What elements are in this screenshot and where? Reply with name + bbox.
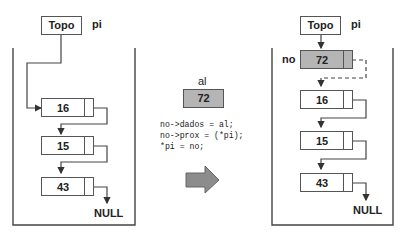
list-node-after: 15 bbox=[300, 131, 353, 150]
topo-box-before: Topo bbox=[41, 16, 82, 35]
null-label-before: NULL bbox=[94, 207, 123, 219]
topo-box-after: Topo bbox=[300, 16, 341, 35]
list-node-after: 43 bbox=[300, 173, 353, 192]
new-list-node: 72 bbox=[300, 50, 353, 69]
no-label: no bbox=[282, 53, 295, 65]
list-node-before: 15 bbox=[41, 136, 94, 155]
pi-label-after: pi bbox=[351, 18, 361, 30]
pi-label-before: pi bbox=[92, 18, 102, 30]
list-node-after: 16 bbox=[300, 90, 353, 109]
list-node-before: 43 bbox=[41, 177, 94, 196]
code-line: no->dados = al; bbox=[160, 119, 234, 130]
null-label-after: NULL bbox=[353, 204, 382, 216]
list-node-before: 16 bbox=[41, 98, 94, 117]
al-label: al bbox=[198, 75, 207, 87]
right-arrow-icon bbox=[186, 166, 219, 193]
code-line: *pi = no; bbox=[160, 141, 204, 152]
al-value-box: 72 bbox=[183, 89, 224, 108]
code-line: no->prox = (*pi); bbox=[160, 130, 244, 141]
